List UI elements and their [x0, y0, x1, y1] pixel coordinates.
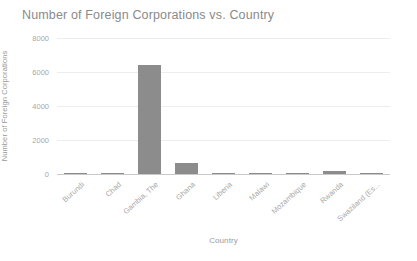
y-tick-label: 0 [45, 170, 49, 179]
bar-series [57, 38, 390, 174]
y-tick-label: 8000 [32, 34, 49, 43]
x-axis-title: Country [57, 236, 390, 245]
plot-area [57, 38, 390, 174]
y-tick-label: 4000 [32, 102, 49, 111]
x-axis-tick-labels: BurundiChadGambia, TheGhanaLiberiaMalawi… [57, 174, 390, 234]
x-tick-label: Rwanda [318, 180, 345, 205]
y-tick-label: 2000 [32, 136, 49, 145]
x-tick-label: Liberia [211, 180, 234, 202]
x-tick-label: Chad [103, 180, 123, 199]
bar [138, 65, 161, 174]
chart-title: Number of Foreign Corporations vs. Count… [22, 8, 274, 22]
chart-container: Number of Foreign Corporations vs. Count… [0, 0, 417, 261]
y-axis-tick-labels: 02000400060008000 [0, 38, 53, 174]
y-tick-label: 6000 [32, 68, 49, 77]
x-tick-label: Malawi [247, 180, 271, 203]
x-tick-label: Mozambique [269, 180, 307, 216]
bar [175, 163, 198, 174]
x-tick-label: Ghana [174, 180, 197, 202]
x-tick-label: Burundi [60, 180, 85, 204]
x-tick-label: Gambia, The [121, 180, 160, 216]
